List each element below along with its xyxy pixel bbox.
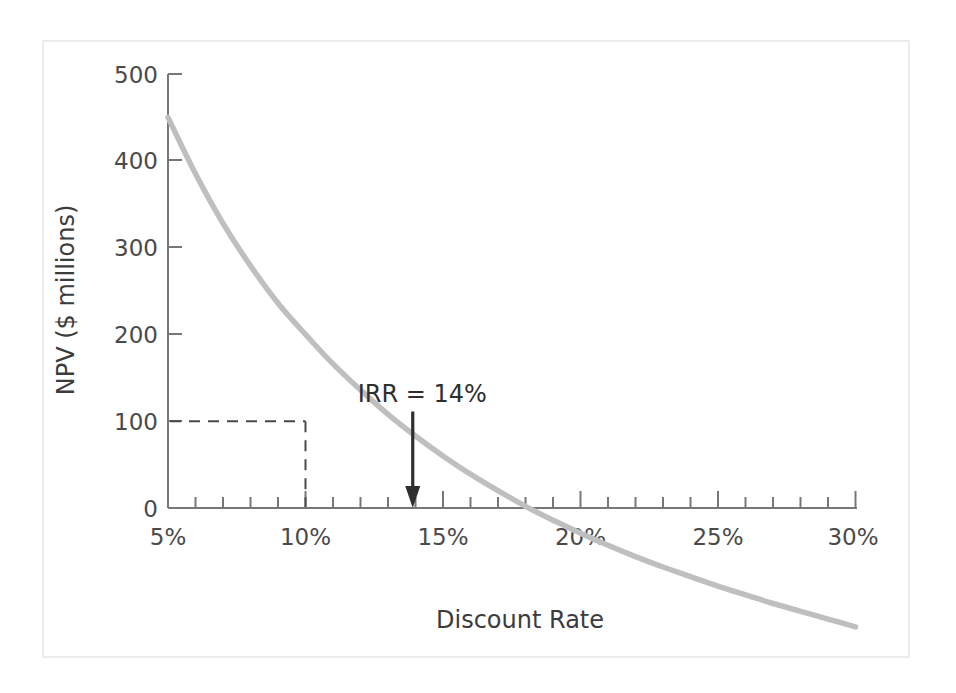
x-tick-label-30: 30% [827, 524, 878, 550]
npv-curve-main [168, 117, 856, 627]
y-tick-label-400: 400 [114, 148, 158, 174]
y-tick-label-300: 300 [114, 235, 158, 261]
x-axis-tick-labels: 5% 10% 15% 20% 25% 30% [150, 524, 879, 550]
npv-at-10-percent-guide [170, 421, 306, 507]
y-tick-label-0: 0 [143, 496, 158, 522]
y-axis-tick-labels: 500 400 300 200 100 0 [114, 62, 158, 522]
x-tick-label-10: 10% [280, 524, 331, 550]
x-tick-label-5: 5% [150, 524, 187, 550]
y-tick-label-100: 100 [114, 409, 158, 435]
x-axis-title: Discount Rate [436, 606, 604, 634]
x-tick-label-25: 25% [692, 524, 743, 550]
y-axis-title: NPV ($ millions) [52, 205, 80, 396]
y-tick-label-200: 200 [114, 322, 158, 348]
irr-arrow [405, 412, 420, 509]
x-tick-label-20: 20% [555, 524, 606, 550]
irr-label: IRR = 14% [358, 380, 487, 408]
x-tick-label-15: 15% [417, 524, 468, 550]
y-tick-label-500: 500 [114, 62, 158, 88]
figure-container: 500 400 300 200 100 0 [0, 0, 956, 693]
chart-canvas: 500 400 300 200 100 0 [0, 0, 956, 693]
